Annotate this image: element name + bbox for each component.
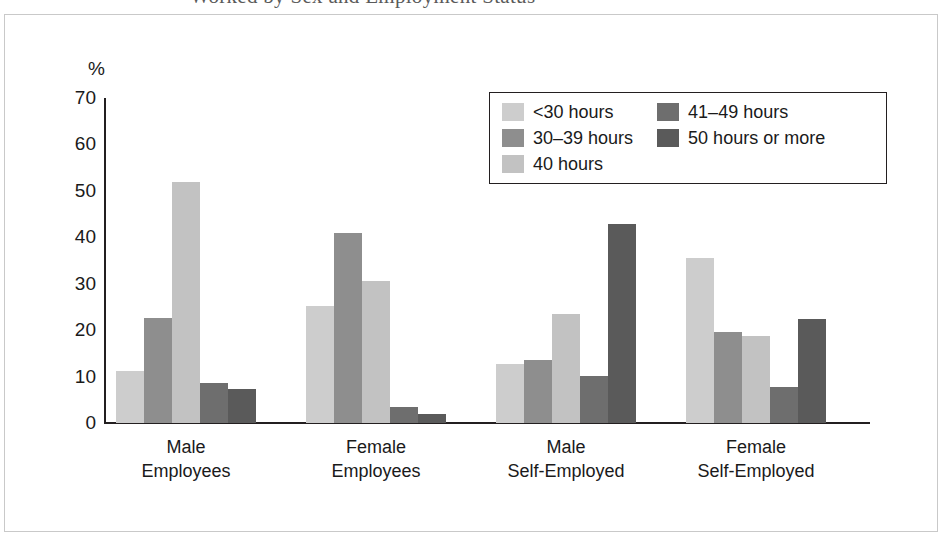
- bar: [418, 414, 446, 423]
- bar: [306, 306, 334, 423]
- bar-group: [116, 98, 256, 423]
- category-label-line: Employees: [86, 460, 286, 484]
- bar: [496, 364, 524, 423]
- bar: [200, 383, 228, 423]
- legend-item: 41–49 hours: [657, 101, 825, 122]
- bar: [334, 233, 362, 423]
- bar: [580, 376, 608, 423]
- bar-group: [306, 98, 446, 423]
- chart-plot-area: % 010203040506070 MaleEmployeesFemaleEmp…: [0, 0, 942, 544]
- category-label: MaleSelf-Employed: [466, 436, 666, 484]
- bar: [228, 389, 256, 423]
- legend-swatch-icon: [502, 103, 524, 121]
- legend-label: 41–49 hours: [688, 103, 788, 121]
- legend-item: 50 hours or more: [657, 127, 825, 148]
- legend-items-container: <30 hours30–39 hours40 hours41–49 hours5…: [502, 101, 825, 174]
- bar: [714, 332, 742, 423]
- category-label-line: Self-Employed: [656, 460, 856, 484]
- category-label-line: Self-Employed: [466, 460, 666, 484]
- legend-column: <30 hours30–39 hours40 hours: [502, 101, 633, 174]
- bar: [362, 281, 390, 423]
- legend-column: 41–49 hours50 hours or more: [657, 101, 825, 174]
- legend-swatch-icon: [502, 155, 524, 173]
- legend-item: 30–39 hours: [502, 127, 633, 148]
- bar: [686, 258, 714, 423]
- bar: [770, 387, 798, 423]
- legend-label: 30–39 hours: [533, 129, 633, 147]
- bar: [116, 371, 144, 423]
- legend-swatch-icon: [657, 129, 679, 147]
- category-label-line: Male: [466, 436, 666, 460]
- bar: [742, 336, 770, 423]
- bar: [144, 318, 172, 423]
- category-label-line: Male: [86, 436, 286, 460]
- legend-label: 40 hours: [533, 155, 603, 173]
- category-label: FemaleEmployees: [276, 436, 476, 484]
- legend-swatch-icon: [502, 129, 524, 147]
- category-label-line: Female: [276, 436, 476, 460]
- y-axis-unit-label: %: [88, 58, 105, 80]
- chart-legend: <30 hours30–39 hours40 hours41–49 hours5…: [489, 92, 887, 184]
- legend-item: <30 hours: [502, 101, 633, 122]
- bar: [524, 360, 552, 423]
- bar: [608, 224, 636, 423]
- category-label-line: Employees: [276, 460, 476, 484]
- bar: [172, 182, 200, 423]
- bar: [552, 314, 580, 423]
- category-label: MaleEmployees: [86, 436, 286, 484]
- legend-label: <30 hours: [533, 103, 614, 121]
- category-label: FemaleSelf-Employed: [656, 436, 856, 484]
- bar: [390, 407, 418, 423]
- legend-label: 50 hours or more: [688, 129, 825, 147]
- category-label-line: Female: [656, 436, 856, 460]
- legend-swatch-icon: [657, 103, 679, 121]
- legend-item: 40 hours: [502, 153, 633, 174]
- bar: [798, 319, 826, 423]
